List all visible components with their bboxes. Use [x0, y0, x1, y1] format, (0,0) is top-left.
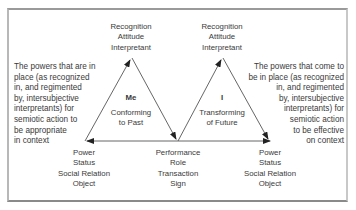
subtitle-line: Conforming [101, 108, 161, 118]
subtitle-line: Transforming [192, 108, 252, 118]
vertex-label-line: Performance [148, 148, 208, 158]
left-note-line: in, and regimented [14, 83, 95, 94]
left-apex-label: Recognition Attitude Interpretant [101, 22, 161, 53]
right-note-line: by, intersubjective [248, 94, 344, 105]
right-note-line: be in place (as recognized [248, 73, 344, 84]
apex-label-line: Recognition [101, 22, 161, 32]
apex-label-line: Attitude [101, 32, 161, 42]
right-center-title: I [202, 93, 242, 103]
right-note-line: in, and regimented [248, 83, 344, 94]
right-center-subtitle: Transforming of Future [192, 108, 252, 129]
base-label-line: Power [240, 148, 300, 158]
base-label-line: Status [240, 158, 300, 168]
vertex-label-line: Role [148, 158, 208, 168]
left-center-subtitle: Conforming to Past [101, 108, 161, 129]
left-note-line: by, intersubjective [14, 94, 95, 105]
apex-label-line: Interpretant [101, 43, 161, 53]
base-label-line: Power [54, 148, 114, 158]
vertex-label-line: Transaction [148, 169, 208, 179]
right-note-line: to be effective [248, 126, 344, 137]
left-center-title: Me [111, 93, 151, 103]
base-label-line: Object [54, 179, 114, 189]
right-note: The powers that come to be in place (as … [248, 62, 344, 147]
subtitle-line: to Past [101, 118, 161, 128]
left-note-line: interpretants) for [14, 104, 95, 115]
left-note-line: be appropriate [14, 126, 95, 137]
base-label-line: Object [240, 179, 300, 189]
apex-label-line: Attitude [192, 32, 252, 42]
right-note-line: interpretants) for [248, 104, 344, 115]
left-base-label: Power Status Social Relation Object [54, 148, 114, 190]
base-label-line: Social Relation [240, 169, 300, 179]
shared-vertex-label: Performance Role Transaction Sign [148, 148, 208, 190]
left-note-line: in context [14, 136, 95, 147]
apex-label-line: Interpretant [192, 43, 252, 53]
right-note-line: on context [248, 136, 344, 147]
base-label-line: Status [54, 158, 114, 168]
base-label-line: Social Relation [54, 169, 114, 179]
left-note-line: The powers that are in [14, 62, 95, 73]
right-note-line: The powers that come to [248, 62, 344, 73]
right-base-label: Power Status Social Relation Object [240, 148, 300, 190]
right-apex-label: Recognition Attitude Interpretant [192, 22, 252, 53]
left-note: The powers that are in place (as recogni… [14, 62, 95, 147]
left-note-line: place (as recognized [14, 73, 95, 84]
apex-label-line: Recognition [192, 22, 252, 32]
right-note-line: semiotic action [248, 115, 344, 126]
vertex-label-line: Sign [148, 179, 208, 189]
subtitle-line: of Future [192, 118, 252, 128]
left-note-line: semiotic action to [14, 115, 95, 126]
